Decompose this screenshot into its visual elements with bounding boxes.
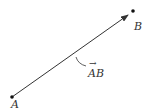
point-b-label: B xyxy=(133,20,142,33)
point-a-label: A xyxy=(10,98,19,111)
point-b xyxy=(131,9,135,13)
vector-ab-line xyxy=(12,15,128,97)
vector-diagram: A B → AB xyxy=(0,0,145,112)
label-leader-curve xyxy=(76,57,86,66)
vector-label: AB xyxy=(87,67,104,80)
